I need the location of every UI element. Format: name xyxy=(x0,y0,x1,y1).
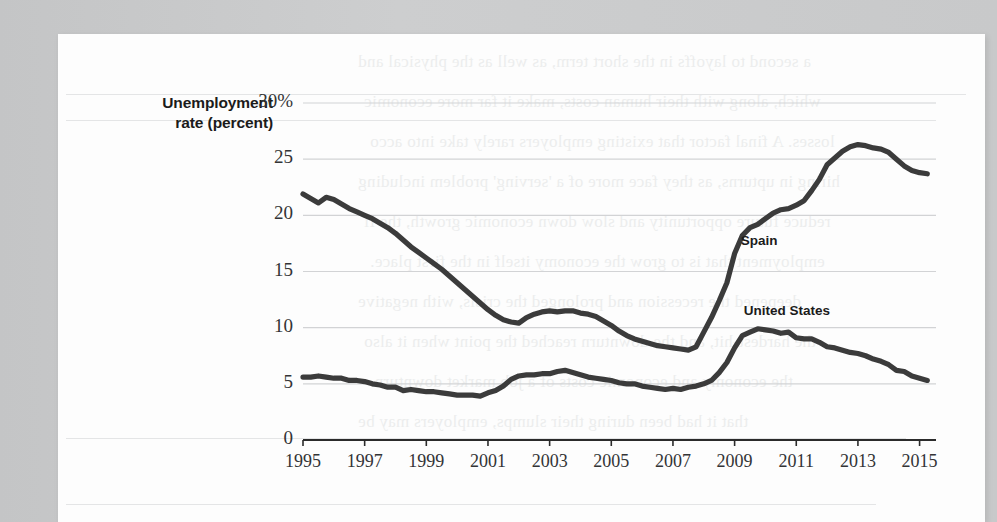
x-axis-tick-label-1997: 1997 xyxy=(335,451,395,472)
x-axis-tick-label-2009: 2009 xyxy=(705,451,765,472)
unemployment-line-chart: Unemployment rate (percent) 30%252015105… xyxy=(58,34,985,522)
x-axis-tick-label-2003: 2003 xyxy=(520,451,580,472)
series-label-spain: Spain xyxy=(741,233,778,248)
y-axis-tick-label-15: 15 xyxy=(233,259,293,281)
y-axis-tick-label-5: 5 xyxy=(233,371,293,393)
x-axis-tick-label-1999: 1999 xyxy=(396,451,456,472)
x-axis-tick-label-2013: 2013 xyxy=(828,451,888,472)
x-axis-tick-label-2015: 2015 xyxy=(890,451,950,472)
series-label-united-states: United States xyxy=(744,303,830,318)
x-axis-tick-label-2007: 2007 xyxy=(643,451,703,472)
y-axis-tick-label-0: 0 xyxy=(233,427,293,449)
y-axis-tick-label-25: 25 xyxy=(233,146,293,168)
series-line-united-states xyxy=(303,329,927,396)
card-inner: a second to layoffs in the short term, a… xyxy=(58,34,985,522)
x-axis-tick-label-2011: 2011 xyxy=(766,451,826,472)
x-axis-tick-label-2001: 2001 xyxy=(458,451,518,472)
axis-title-line2: rate (percent) xyxy=(98,113,273,133)
y-axis-tick-label-10: 10 xyxy=(233,315,293,337)
series-line-spain xyxy=(303,145,927,351)
x-axis-tick-label-2005: 2005 xyxy=(581,451,641,472)
scanned-page-card: a second to layoffs in the short term, a… xyxy=(58,34,985,522)
page-root: a second to layoffs in the short term, a… xyxy=(0,0,997,522)
y-axis-tick-label-30: 30% xyxy=(225,90,293,112)
x-axis-tick-label-1995: 1995 xyxy=(273,451,333,472)
y-axis-tick-label-20: 20 xyxy=(233,202,293,224)
